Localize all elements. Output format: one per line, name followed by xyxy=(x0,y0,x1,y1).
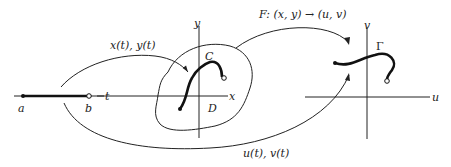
arrow-param-uv xyxy=(64,75,349,149)
curve-c-end xyxy=(222,76,227,81)
arrowhead-mapping-f xyxy=(344,37,350,45)
curve-gamma xyxy=(335,54,394,80)
label-b: b xyxy=(85,103,92,114)
label-x: x xyxy=(229,91,235,102)
label-mapping-f: F: (x, y) → (u, v) xyxy=(259,9,347,20)
label-gamma: Γ xyxy=(376,41,384,52)
arrow-mapping-f xyxy=(236,28,348,48)
label-a: a xyxy=(18,103,25,114)
region-d-boundary xyxy=(156,44,253,130)
arrowhead-param-xy xyxy=(182,65,189,72)
label-param-xy: x(t), y(t) xyxy=(110,40,155,51)
label-c: C xyxy=(205,51,213,62)
parametric-mapping-diagram: a b t y x C D v u Γ x(t), y(t) F: (x, y)… xyxy=(0,0,451,167)
label-u: u xyxy=(432,92,439,103)
curve-gamma-start xyxy=(333,61,337,65)
endpoint-a xyxy=(21,94,25,98)
curve-c-start xyxy=(178,107,182,111)
diagram-drawing xyxy=(0,0,451,167)
curve-gamma-end xyxy=(385,79,390,84)
label-param-uv: u(t), v(t) xyxy=(243,148,289,159)
label-t: t xyxy=(105,91,109,102)
label-v: v xyxy=(364,20,370,31)
label-d: D xyxy=(208,103,217,114)
arrowhead-param-uv xyxy=(345,73,350,81)
endpoint-b xyxy=(87,94,92,99)
label-y: y xyxy=(194,18,200,29)
